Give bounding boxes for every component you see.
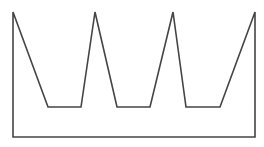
- crown-polygon: [13, 12, 255, 137]
- diagram-canvas: [0, 0, 264, 147]
- crown-outline-shape: [0, 0, 264, 147]
